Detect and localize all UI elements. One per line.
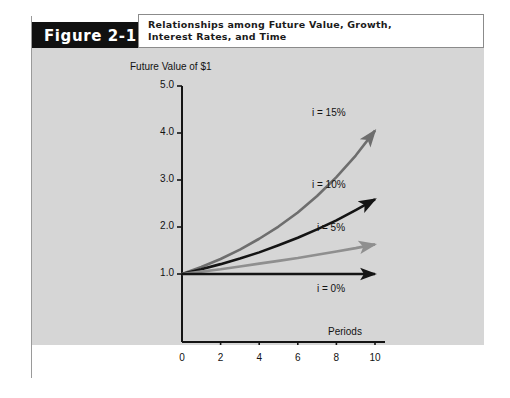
curve-label-0: i = 0% — [317, 283, 345, 294]
y-tick-label: 3.0 — [146, 173, 174, 184]
y-tick-label: 4.0 — [146, 126, 174, 137]
x-tick-label: 6 — [284, 352, 312, 363]
x-tick-label: 10 — [361, 352, 389, 363]
chart-panel: Future Value of $1 Periods 1.02.03.04.05… — [32, 48, 484, 345]
x-tick-label: 8 — [322, 352, 350, 363]
curve-label-5: i = 5% — [317, 222, 345, 233]
y-tick-label: 5.0 — [146, 79, 174, 90]
x-tick-label: 2 — [207, 352, 235, 363]
x-tick-label: 0 — [168, 352, 196, 363]
curve-label-15: i = 15% — [312, 107, 346, 118]
chart-svg — [32, 48, 484, 345]
y-tick-label: 1.0 — [146, 267, 174, 278]
curve-label-10: i = 10% — [312, 179, 346, 190]
figure-caption-line-1: Relationships among Future Value, Growth… — [148, 19, 392, 30]
figure-number-tab: Figure 2-1 — [32, 22, 139, 49]
figure-caption-box: Relationships among Future Value, Growth… — [138, 14, 484, 48]
figure-caption-line-2: Interest Rates, and Time — [148, 31, 287, 42]
figure-container: Figure 2-1 Relationships among Future Va… — [0, 0, 510, 398]
curve-5-percent — [182, 244, 375, 274]
curve-15-percent — [182, 131, 375, 274]
x-tick-label: 4 — [245, 352, 273, 363]
y-tick-label: 2.0 — [146, 220, 174, 231]
figure-caption-text: Relationships among Future Value, Growth… — [139, 19, 392, 43]
figure-number-label: Figure 2-1 — [32, 27, 137, 45]
chart-curves — [182, 131, 375, 274]
chart-axes — [177, 86, 385, 345]
